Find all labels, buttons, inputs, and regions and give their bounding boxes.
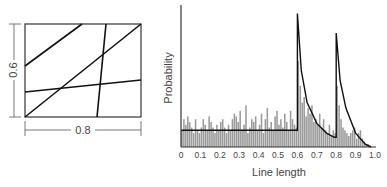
x-tick-label: 0.6 [291, 150, 303, 160]
histogram-bar [317, 125, 319, 147]
histogram-bar [259, 125, 261, 147]
histogram-bar [344, 130, 346, 147]
histogram-bar [305, 116, 307, 147]
histogram-bar [307, 108, 309, 147]
x-tick-label: 0.2 [214, 150, 226, 160]
histogram-bar [323, 119, 325, 147]
x-tick-label: 0.9 [350, 150, 362, 160]
histogram-bar [214, 133, 216, 147]
histogram-bar [257, 130, 259, 147]
histogram-bar [197, 130, 199, 147]
histogram-bar [232, 119, 234, 147]
histogram-bar [195, 119, 197, 147]
histogram-bar [263, 133, 265, 147]
x-tick-label: 0.4 [253, 150, 265, 160]
histogram-bar [216, 125, 218, 147]
x-tick-labels: 00.10.20.30.40.50.60.70.80.91.0 [179, 150, 382, 160]
histogram-bar [241, 130, 243, 147]
histogram-bar [338, 105, 340, 147]
x-tick-label: 0.1 [194, 150, 206, 160]
histogram-bar [327, 133, 329, 147]
histogram-bar [313, 122, 315, 147]
histogram-bar [309, 114, 311, 147]
histogram-bar [204, 125, 206, 147]
histogram-bar [218, 130, 220, 147]
random-line-3 [25, 80, 141, 92]
width-label: 0.8 [75, 124, 90, 136]
histogram-bar [294, 125, 296, 147]
histogram-bar [187, 116, 189, 147]
histogram-bar [352, 130, 354, 147]
histogram-bar [185, 125, 187, 147]
histogram-bar [276, 111, 278, 147]
x-axis-label: Line length [252, 166, 306, 178]
histogram-bar [220, 122, 222, 147]
histogram-bar [193, 133, 195, 147]
histogram-bar [255, 116, 257, 147]
x-tick-label: 0 [179, 150, 184, 160]
x-tick-label: 0.7 [311, 150, 323, 160]
width-dimension: 0.8 [25, 121, 141, 136]
histogram-bar [206, 130, 208, 147]
histogram-bar [230, 130, 232, 147]
histogram-bar [203, 119, 205, 147]
histogram-bar [265, 119, 267, 147]
histogram-bar [350, 133, 352, 147]
random-line-2 [25, 24, 141, 117]
histogram-bar [303, 97, 305, 147]
histogram-bar [319, 114, 321, 147]
histogram-bar [222, 119, 224, 147]
rectangle-diagram: 0.6 0.8 [7, 24, 141, 136]
histogram-bar [300, 86, 302, 147]
random-line-4 [97, 24, 106, 117]
histogram-bar [280, 119, 282, 147]
histogram-bar [356, 139, 358, 147]
histogram-bar [290, 111, 292, 147]
histogram-bar [286, 122, 288, 147]
histogram-bar [189, 122, 191, 147]
histogram-bar [247, 133, 249, 147]
histogram-bar [228, 125, 230, 147]
histogram-bar [333, 130, 335, 147]
histogram-bar [301, 103, 303, 147]
histogram-bar [342, 128, 344, 147]
histogram-bar [321, 128, 323, 147]
histogram-bar [348, 136, 350, 147]
figure: 0.6 0.8 00.10.20.30.40.50.60.70.80.91.0 … [0, 0, 387, 187]
x-tick-label: 0.8 [330, 150, 342, 160]
histogram-bar [239, 111, 241, 147]
histogram-bar [251, 119, 253, 147]
histogram-bar [292, 119, 294, 147]
histogram-bar [278, 125, 280, 147]
histogram-bar [270, 122, 272, 147]
histogram-bar [199, 133, 201, 147]
height-label: 0.6 [7, 62, 19, 77]
histogram-chart: 00.10.20.30.40.50.60.70.80.91.0 Probabil… [162, 5, 381, 178]
histogram-bar [236, 116, 238, 147]
x-tick-label: 0.5 [272, 150, 284, 160]
histogram-bar [183, 119, 185, 147]
histogram-bar [245, 105, 247, 147]
x-tick-label: 0.3 [233, 150, 245, 160]
height-dimension: 0.6 [7, 24, 21, 117]
histogram-bar [272, 130, 274, 147]
histogram-bar [329, 125, 331, 147]
histogram-bar [210, 122, 212, 147]
histogram-bar [253, 122, 255, 147]
histogram-bar [274, 116, 276, 147]
random-line-1 [25, 24, 82, 66]
y-axis-label: Probability [162, 52, 174, 104]
histogram-bar [340, 119, 342, 147]
histogram-bars [181, 61, 371, 147]
histogram-bar [243, 125, 245, 147]
x-tick-label: 1.0 [369, 150, 381, 160]
histogram-bar [288, 130, 290, 147]
histogram-bar [346, 133, 348, 147]
histogram-bar [237, 122, 239, 147]
histogram-bar [208, 116, 210, 147]
histogram-bar [267, 108, 269, 147]
histogram-bar [226, 133, 228, 147]
histogram-bar [331, 136, 333, 147]
